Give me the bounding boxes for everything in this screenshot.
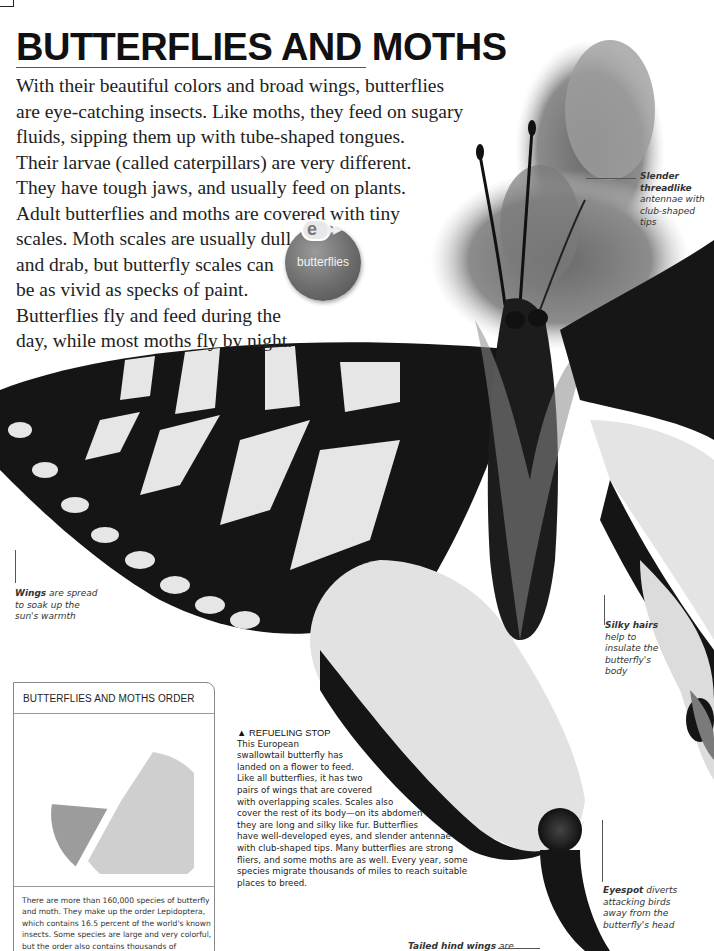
web-link-label: butterflies — [285, 255, 361, 269]
order-box-divider — [14, 713, 214, 714]
callout-text: diverts — [643, 885, 677, 895]
caption-line: with overlapping scales. Scales also — [237, 797, 567, 809]
callout-text: away from the — [603, 908, 668, 918]
intro-line: Adult butterflies and moths are covered … — [16, 201, 576, 227]
caption-line: places to breed. — [237, 878, 567, 890]
intro-line: Butterflies fly and feed during the — [16, 303, 576, 329]
intro-line: They have tough jaws, and usually feed o… — [16, 175, 576, 201]
lepidoptera-pie-chart — [48, 728, 194, 874]
caption-line: swallowtail butterfly has — [237, 750, 567, 762]
callout-text: body — [605, 666, 627, 676]
fast-forward-icon: ▶▶ — [327, 223, 339, 236]
intro-line: Their larvae (called caterpillars) are v… — [16, 150, 576, 176]
intro-line: are eye-catching insects. Like moths, th… — [16, 99, 576, 125]
caption-line: This European — [237, 739, 567, 751]
callout-eyespot: Eyespot diverts attacking birds away fro… — [603, 885, 703, 931]
refueling-stop-caption: ▲ REFUELING STOP This European swallowta… — [237, 727, 567, 889]
callout-text: attacking birds — [603, 897, 670, 907]
callout-bold: Silky hairs — [605, 620, 658, 630]
caption-line: Like all butterflies, it has two — [237, 773, 567, 785]
callout-leader-line — [498, 948, 540, 949]
order-box-divider — [14, 886, 214, 887]
order-info-box: BUTTERFLIES AND MOTHS ORDER There are mo… — [13, 682, 215, 951]
page-corner-mark — [0, 0, 14, 7]
caption-line: they are long and silky like fur. Butter… — [237, 820, 567, 832]
caption-line: cover the rest of its body—on its abdome… — [237, 808, 567, 820]
triangle-up-icon: ▲ — [237, 727, 246, 738]
caption-heading-text: REFUELING STOP — [249, 727, 331, 738]
callout-antennae: Slender threadlike antennae with club-sh… — [640, 171, 714, 229]
intro-paragraph: With their beautiful colors and broad wi… — [16, 73, 576, 354]
callout-leader-line — [586, 178, 636, 179]
callout-bold: Slender threadlike — [640, 171, 692, 193]
callout-bold: Eyespot — [603, 885, 643, 895]
order-box-title: BUTTERFLIES AND MOTHS ORDER — [23, 693, 195, 704]
callout-text: insulate the — [605, 643, 658, 653]
callout-text: are spread — [46, 588, 97, 598]
callout-text: sun's warmth — [15, 611, 76, 621]
callout-text: club-shaped tips — [640, 206, 695, 228]
caption-heading: ▲ REFUELING STOP — [237, 727, 567, 739]
callout-wings: Wings are spread to soak up the sun's wa… — [15, 588, 115, 623]
callout-bold: Wings — [15, 588, 46, 598]
callout-leader-line — [602, 820, 603, 882]
callout-text: butterfly's head — [603, 920, 674, 930]
callout-leader-line — [15, 550, 16, 583]
order-box-text: There are more than 160,000 species of b… — [22, 895, 212, 951]
caption-line: landed on a flower to feed. — [237, 762, 567, 774]
page-title: BUTTERFLIES AND MOTHS — [16, 26, 507, 68]
callout-tailed-hind-wings: Tailed hind wings are a — [408, 941, 518, 951]
web-link-badge[interactable]: e ▶▶ butterflies — [285, 225, 361, 301]
caption-line: have well-developed eyes, and slender an… — [237, 831, 567, 843]
callout-text: antennae with — [640, 194, 705, 204]
caption-line: with club-shaped tips. Many butterflies … — [237, 843, 567, 855]
title-divider — [16, 67, 366, 68]
intro-line: With their beautiful colors and broad wi… — [16, 73, 576, 99]
callout-text: to soak up the — [15, 600, 80, 610]
callout-text: butterfly's — [605, 655, 651, 665]
intro-line: fluids, sipping them up with tube-shaped… — [16, 124, 576, 150]
intro-line: day, while most moths fly by night. — [16, 328, 576, 354]
caption-line: fliers, and some moths are as well. Ever… — [237, 855, 567, 867]
callout-text: help to — [605, 632, 636, 642]
callout-silky-hairs: Silky hairs help to insulate the butterf… — [605, 620, 665, 678]
callout-bold: Tailed hind wings — [408, 941, 496, 951]
caption-line: pairs of wings that are covered — [237, 785, 567, 797]
caption-line: species migrate thousands of miles to re… — [237, 866, 567, 878]
